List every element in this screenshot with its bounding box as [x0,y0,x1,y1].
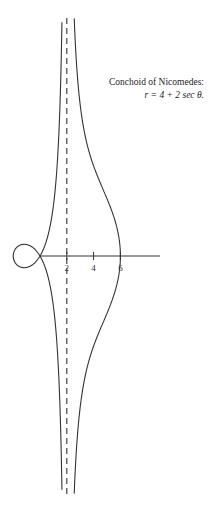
caption-equation: r = 4 + 2 sec θ. [109,89,204,102]
figure-caption: Conchoid of Nicomedes: r = 4 + 2 sec θ. [109,76,204,102]
x-axis-ticks: 246 [65,252,124,273]
x-tick-label: 2 [65,263,70,273]
caption-title: Conchoid of Nicomedes: [109,76,204,89]
x-tick-label: 4 [91,263,96,273]
